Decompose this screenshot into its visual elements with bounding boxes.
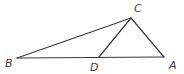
segment-CA [131, 18, 164, 57]
vertex-label-D: D [90, 61, 98, 74]
vertex-label-B: B [5, 57, 13, 70]
vertex-label-C: C [134, 2, 142, 15]
geometry-figure: B A C D [0, 0, 184, 74]
segment-BA [17, 57, 164, 58]
vertex-label-A: A [168, 59, 177, 72]
triangle-diagram-canvas: B A C D [0, 0, 184, 74]
